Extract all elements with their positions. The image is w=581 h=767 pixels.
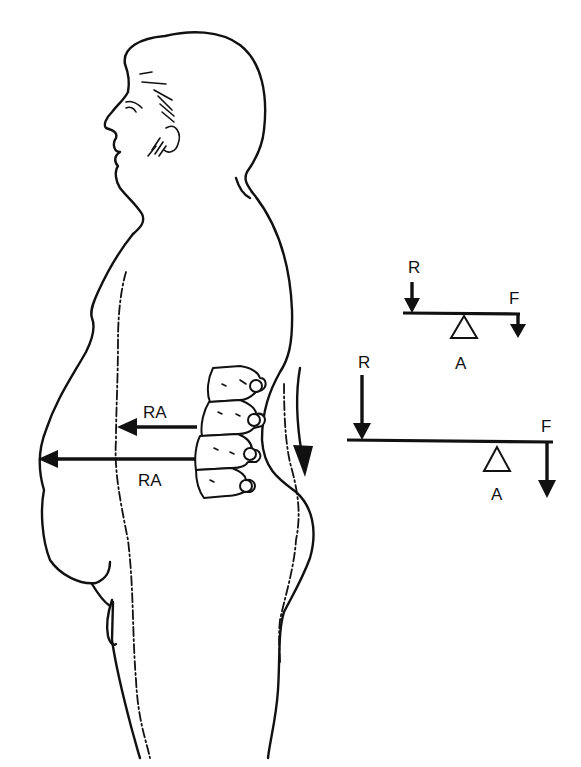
ra-arrow-upper: RA xyxy=(117,403,197,436)
arrow-left-icon xyxy=(117,418,137,436)
human-profile-illustration xyxy=(40,32,314,758)
small-lever-axis-label: A xyxy=(455,354,467,373)
curved-arrow-down-icon xyxy=(293,445,313,477)
small-lever-diagram: R F A xyxy=(403,258,526,373)
large-lever-resistance-label: R xyxy=(358,353,370,372)
small-lever-resistance-label: R xyxy=(408,258,420,277)
arrow-down-icon xyxy=(510,324,526,338)
fulcrum-triangle-icon xyxy=(484,447,510,471)
lordosis-curve-arrow-shaft xyxy=(297,368,302,455)
fulcrum-triangle-icon xyxy=(451,316,477,338)
lumbar-spine-illustration xyxy=(195,366,265,498)
large-lever-axis-label: A xyxy=(491,485,503,504)
biomechanics-figure: RA RA R F A R F A xyxy=(0,0,581,767)
arrow-down-icon xyxy=(538,480,556,498)
large-lever-force-label: F xyxy=(541,417,551,436)
arrow-down-icon xyxy=(404,298,420,313)
ra-label-upper: RA xyxy=(143,403,167,422)
ra-label-lower: RA xyxy=(138,471,162,490)
small-lever-force-label: F xyxy=(509,289,519,308)
large-lever-diagram: R F A xyxy=(347,353,556,504)
arrow-down-icon xyxy=(353,423,371,440)
